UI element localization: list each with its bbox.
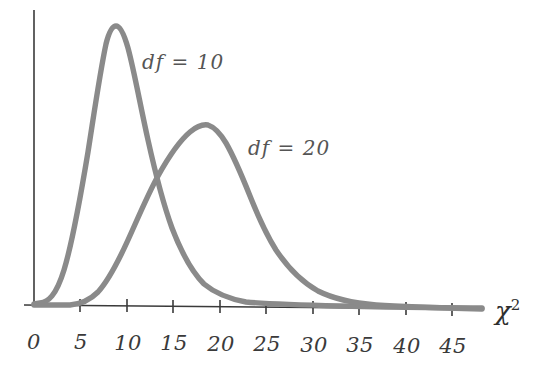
curve-df-10 [34,26,482,308]
xtick-label-20: 20 [196,332,246,356]
xtick-label-45: 45 [428,334,478,358]
chi-square-distribution-figure: 0 5 10 15 20 25 30 35 40 45 df = 10 df =… [0,0,541,376]
curve-annotation-df-20: df = 20 [248,136,330,160]
chi-symbol: χ [495,296,511,326]
xtick-label-30: 30 [289,333,339,357]
xtick-label-15: 15 [149,331,199,355]
curve-annotation-df-10: df = 10 [142,50,224,74]
chart-plot-area [0,0,541,376]
xtick-label-25: 25 [242,332,292,356]
xtick-label-40: 40 [382,334,432,358]
xtick-label-10: 10 [103,331,153,355]
xtick-label-0: 0 [9,330,59,354]
x-axis-title: χ2 [495,296,520,326]
xtick-label-5: 5 [56,330,106,354]
chi-exponent: 2 [511,296,521,314]
xtick-label-35: 35 [335,333,385,357]
